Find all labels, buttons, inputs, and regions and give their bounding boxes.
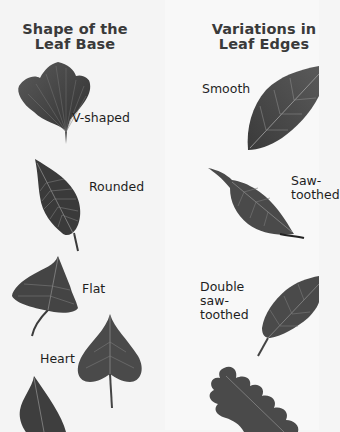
lobed-oak-leaf-image (204, 362, 319, 432)
v-shaped-label: V-shaped (72, 111, 130, 125)
double-saw-toothed-label-line2: saw- (200, 294, 249, 308)
rounded-label: Rounded (89, 180, 144, 194)
saw-toothed-label-line2: toothed (291, 188, 331, 202)
flat-base-leaf-image (8, 256, 80, 336)
leaf-edges-heading: Variations in Leaf Edges (204, 22, 324, 52)
leaf-base-heading-line1: Shape of the (20, 22, 130, 37)
smooth-edge-leaf-image (244, 66, 319, 151)
heart-base-leaf-image (76, 312, 144, 412)
saw-toothed-label-line1: Saw- (291, 174, 331, 188)
double-saw-toothed-leaf-image (256, 276, 319, 358)
double-saw-toothed-label-line1: Double (200, 280, 249, 294)
double-saw-toothed-label-line3: toothed (200, 308, 249, 322)
saw-toothed-label: Saw- toothed (291, 174, 331, 202)
partial-leaf-image (18, 376, 68, 432)
smooth-label: Smooth (202, 82, 250, 96)
leaf-edges-heading-line1: Variations in (204, 22, 324, 37)
ginkgo-leaf-image (14, 60, 94, 145)
double-saw-toothed-label: Double saw- toothed (200, 280, 249, 322)
flat-label: Flat (82, 282, 105, 296)
leaf-base-heading-line2: Leaf Base (20, 37, 130, 52)
leaf-edges-heading-line2: Leaf Edges (204, 37, 324, 52)
heart-label: Heart (40, 352, 75, 366)
leaf-base-heading: Shape of the Leaf Base (20, 22, 130, 52)
rounded-base-leaf-image (30, 157, 90, 252)
